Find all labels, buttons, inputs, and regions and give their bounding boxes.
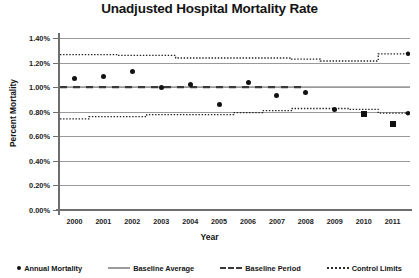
y-axis-title: Percent Mortality [8, 58, 18, 168]
legend-solid-line-icon [108, 267, 130, 269]
legend-item-label: Baseline Average [133, 264, 194, 273]
y-axis-tick [53, 38, 60, 39]
data-point [361, 111, 367, 117]
y-axis-tick [53, 185, 60, 186]
legend-item-label: Baseline Period [245, 264, 300, 273]
chart-title: Unadjusted Hospital Mortality Rate [0, 1, 419, 16]
legend-item-label: Annual Mortality [24, 264, 82, 273]
y-axis-tick [53, 63, 60, 64]
legend-item: Baseline Average [108, 264, 194, 273]
y-axis-tick [53, 136, 60, 137]
legend-item-label: Control Limits [352, 264, 402, 273]
legend-item: Annual Mortality [17, 264, 82, 273]
x-axis-title: Year [0, 232, 419, 242]
plot-area [60, 38, 410, 210]
data-point [159, 85, 164, 90]
data-point [390, 121, 396, 127]
legend-item: Baseline Period [220, 264, 300, 273]
data-point [101, 74, 106, 79]
y-axis-tick [53, 210, 60, 211]
baseline-series [60, 38, 410, 210]
y-axis-tick-label: 1.40% [2, 34, 50, 43]
chart-container: Unadjusted Hospital Mortality Rate 0.00%… [0, 0, 419, 278]
legend-dotted-line-icon [327, 267, 349, 269]
data-point [188, 82, 193, 87]
y-axis-tick [53, 112, 60, 113]
x-axis-tick-label: 2011 [373, 217, 413, 226]
y-axis-tick [53, 87, 60, 88]
chart-legend: Annual MortalityBaseline AverageBaseline… [0, 261, 419, 275]
data-point [130, 69, 135, 74]
data-point [246, 80, 251, 85]
y-axis-tick-label: 0.20% [2, 181, 50, 190]
data-point [217, 102, 222, 107]
legend-dashed-line-icon [220, 267, 242, 269]
legend-dot-icon [17, 266, 21, 270]
y-axis-tick [53, 161, 60, 162]
data-point [72, 76, 77, 81]
y-axis-tick-label: 0.00% [2, 206, 50, 215]
legend-item: Control Limits [327, 264, 402, 273]
